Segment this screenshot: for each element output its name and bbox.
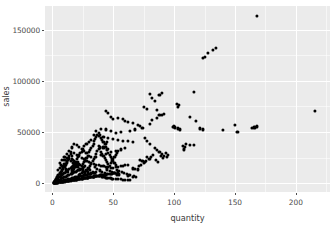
x-tick-mark	[52, 193, 53, 195]
scatter-plot-figure: 050000100000150000 sales 050100150200 qu…	[0, 0, 333, 239]
x-tick-label: 200	[289, 198, 303, 207]
x-axis: 050100150200 quantity	[0, 0, 333, 239]
x-tick-mark	[113, 193, 114, 195]
x-tick-mark	[235, 193, 236, 195]
x-tick-label: 0	[50, 198, 55, 207]
x-tick-mark	[296, 193, 297, 195]
x-tick-label: 100	[167, 198, 181, 207]
x-tick-label: 50	[109, 198, 118, 207]
x-axis-title: quantity	[45, 213, 330, 223]
x-tick-label: 150	[228, 198, 242, 207]
x-tick-mark	[174, 193, 175, 195]
